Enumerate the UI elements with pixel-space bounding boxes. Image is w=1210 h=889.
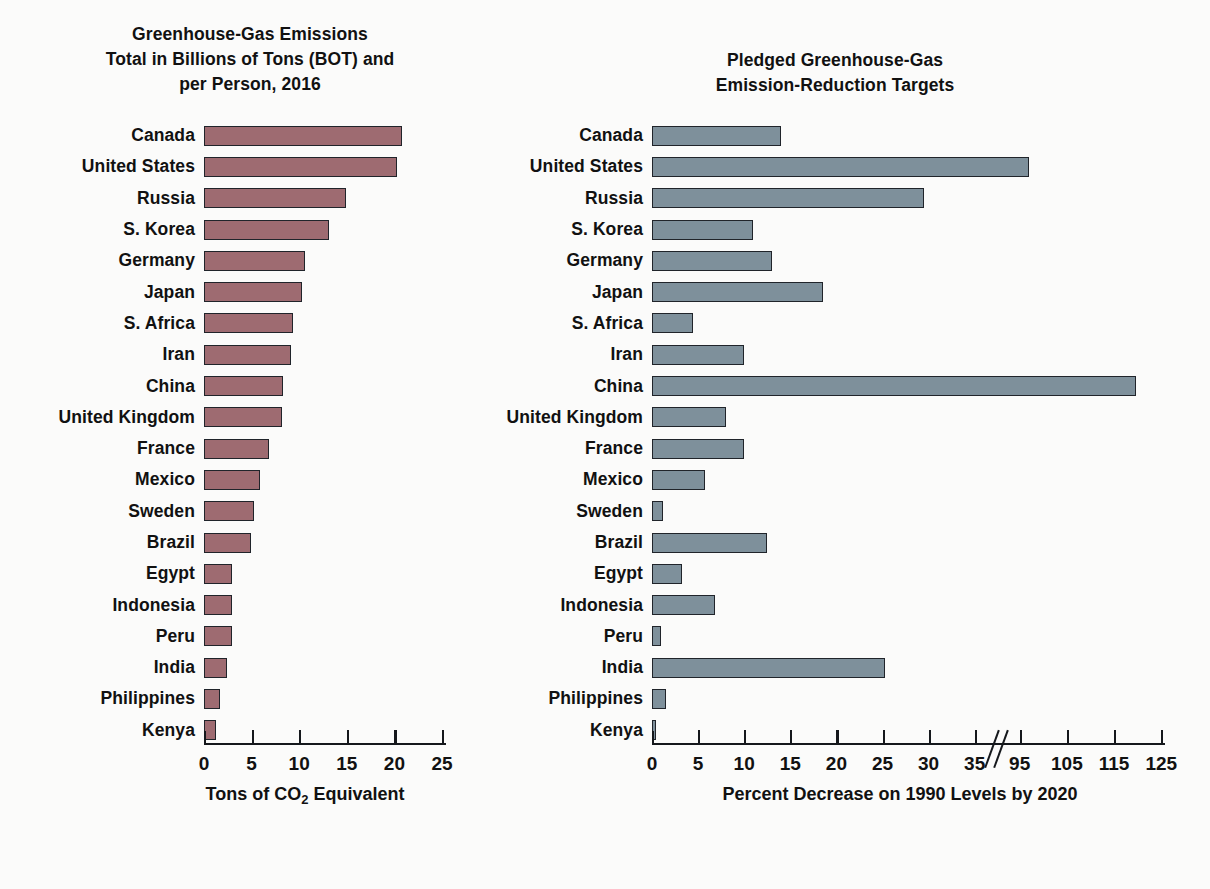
bar-row: Mexico <box>652 464 1136 495</box>
axis-tick-label: 20 <box>826 753 847 775</box>
axis-tick <box>1161 730 1163 743</box>
category-label: Iran <box>611 344 653 365</box>
bar-row: Kenya <box>652 715 1136 746</box>
category-label: S. Africa <box>572 313 652 334</box>
right-bar-rows: CanadaUnited StatesRussiaS. KoreaGermany… <box>652 120 1136 746</box>
axis-tick <box>883 730 885 743</box>
bar-row: Brazil <box>652 527 1136 558</box>
bar <box>652 658 885 678</box>
category-label: Brazil <box>595 532 652 553</box>
bar-row: China <box>204 370 402 401</box>
bar <box>204 345 291 365</box>
category-label: Peru <box>156 626 204 647</box>
axis-tick <box>836 730 838 743</box>
axis-tick-label: 125 <box>1145 753 1177 775</box>
axis-tick-label: 15 <box>780 753 801 775</box>
left-title-line-3: per Person, 2016 <box>30 72 470 97</box>
bar <box>652 595 715 615</box>
axis-line <box>204 743 446 745</box>
bar <box>652 345 744 365</box>
category-label: United States <box>82 156 204 177</box>
bar <box>652 282 823 302</box>
bar <box>204 376 283 396</box>
bar <box>652 157 1029 177</box>
category-label: India <box>154 657 204 678</box>
category-label: Iran <box>163 344 205 365</box>
axis-tick <box>1020 730 1022 743</box>
bar-row: France <box>652 433 1136 464</box>
right-chart-panel: Pledged Greenhouse-Gas Emission-Reductio… <box>560 0 1210 889</box>
axis-tick-label: 0 <box>199 753 210 775</box>
right-x-axis-title: Percent Decrease on 1990 Levels by 2020 <box>560 784 1210 805</box>
bar <box>204 220 329 240</box>
bar <box>204 188 346 208</box>
category-label: Philippines <box>101 688 204 709</box>
category-label: Japan <box>144 282 204 303</box>
bar <box>652 501 663 521</box>
left-chart-panel: Greenhouse-Gas Emissions Total in Billio… <box>0 0 560 889</box>
axis-tick-label: 15 <box>336 753 357 775</box>
bar-row: United Kingdom <box>204 402 402 433</box>
axis-tick <box>347 730 349 743</box>
bar-row: S. Africa <box>652 308 1136 339</box>
bar <box>204 439 269 459</box>
bar-row: S. Korea <box>652 214 1136 245</box>
left-bar-rows: CanadaUnited StatesRussiaS. KoreaGermany… <box>204 120 402 746</box>
axis-tick-label: 10 <box>734 753 755 775</box>
bar-row: United States <box>652 151 1136 182</box>
axis-tick-label: 105 <box>1051 753 1083 775</box>
category-label: Egypt <box>146 563 204 584</box>
axis-tick <box>790 730 792 743</box>
axis-line <box>652 743 1165 745</box>
axis-origin-cap <box>204 731 206 745</box>
bar-row: Egypt <box>652 558 1136 589</box>
bar-row: India <box>204 652 402 683</box>
bar <box>652 251 772 271</box>
bar <box>652 470 705 490</box>
bar-row: Japan <box>652 276 1136 307</box>
category-label: United Kingdom <box>58 407 204 428</box>
axis-tick-label: 0 <box>647 753 658 775</box>
bar <box>204 126 402 146</box>
category-label: Canada <box>579 125 652 146</box>
bar-row: France <box>204 433 402 464</box>
bar <box>652 533 767 553</box>
bar <box>652 376 1136 396</box>
bar <box>204 658 227 678</box>
category-label: S. Africa <box>124 313 204 334</box>
axis-tick <box>252 730 254 743</box>
bar <box>204 251 305 271</box>
axis-tick-label: 25 <box>872 753 893 775</box>
axis-tick-label: 25 <box>431 753 452 775</box>
right-chart-title: Pledged Greenhouse-Gas Emission-Reductio… <box>600 48 1070 98</box>
category-label: S. Korea <box>123 219 204 240</box>
category-label: China <box>594 376 652 397</box>
axis-tick-label: 10 <box>289 753 310 775</box>
axis-tick-label: 115 <box>1099 753 1130 775</box>
right-title-line-1: Pledged Greenhouse-Gas <box>600 48 1070 73</box>
bar-row: Mexico <box>204 464 402 495</box>
category-label: Brazil <box>147 532 204 553</box>
category-label: Indonesia <box>560 595 652 616</box>
bar-row: Egypt <box>204 558 402 589</box>
category-label: Indonesia <box>112 595 204 616</box>
bar <box>652 313 693 333</box>
bar-row: Philippines <box>204 683 402 714</box>
axis-tick <box>442 730 444 743</box>
category-label: Mexico <box>135 469 204 490</box>
bar-row: S. Africa <box>204 308 402 339</box>
category-label: France <box>585 438 652 459</box>
bar-row: Sweden <box>652 496 1136 527</box>
axis-tick <box>744 730 746 743</box>
category-label: Japan <box>592 282 652 303</box>
bar-row: Japan <box>204 276 402 307</box>
category-label: China <box>146 376 204 397</box>
right-title-line-2: Emission-Reduction Targets <box>600 73 1070 98</box>
bar-row: Germany <box>204 245 402 276</box>
bar <box>652 126 781 146</box>
bar <box>652 626 661 646</box>
axis-tick-label: 20 <box>384 753 405 775</box>
bar-row: Kenya <box>204 715 402 746</box>
bar <box>204 564 232 584</box>
bar-row: Germany <box>652 245 1136 276</box>
